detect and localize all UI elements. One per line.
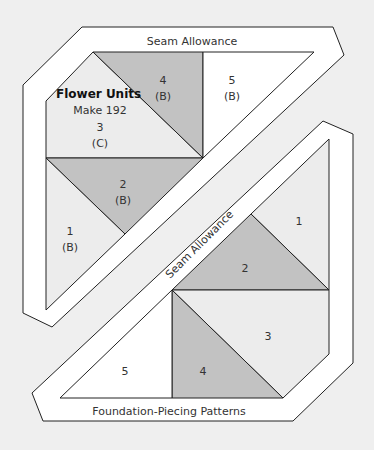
piece-5-fabric: (B)	[224, 90, 240, 103]
footer-label: Foundation-Piecing Patterns	[92, 405, 246, 418]
flower-units-title: Flower Units	[56, 87, 141, 101]
piece-4-fabric: (B)	[155, 90, 171, 103]
bottom-piece-5	[60, 290, 172, 398]
b-piece-4-num: 4	[200, 365, 207, 378]
piece-3-fabric: (C)	[92, 137, 108, 150]
b-piece-5-num: 5	[122, 365, 129, 378]
piece-2-num: 2	[120, 178, 127, 191]
top-piece-5	[203, 52, 314, 158]
make-count: Make 192	[73, 104, 126, 117]
piece-5-num: 5	[229, 74, 236, 87]
piece-1-num: 1	[67, 225, 74, 238]
piece-2-fabric: (B)	[115, 194, 131, 207]
piece-4-num: 4	[160, 74, 167, 87]
piece-1-fabric: (B)	[62, 241, 78, 254]
foundation-piecing-diagram: Seam Allowance Flower Units Make 192 3 (…	[0, 0, 374, 450]
b-piece-2-num: 2	[242, 262, 249, 275]
b-piece-1-num: 1	[296, 215, 303, 228]
b-piece-3-num: 3	[265, 330, 272, 343]
piece-3-num: 3	[97, 121, 104, 134]
top-seam-label: Seam Allowance	[147, 35, 238, 48]
